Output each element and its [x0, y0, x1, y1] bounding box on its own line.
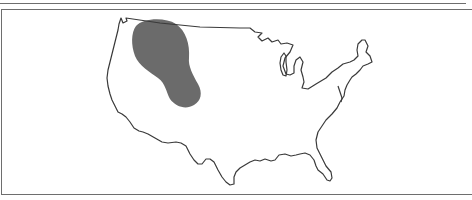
- highlighted-region: [132, 19, 201, 107]
- chesapeake-bay: [338, 86, 342, 102]
